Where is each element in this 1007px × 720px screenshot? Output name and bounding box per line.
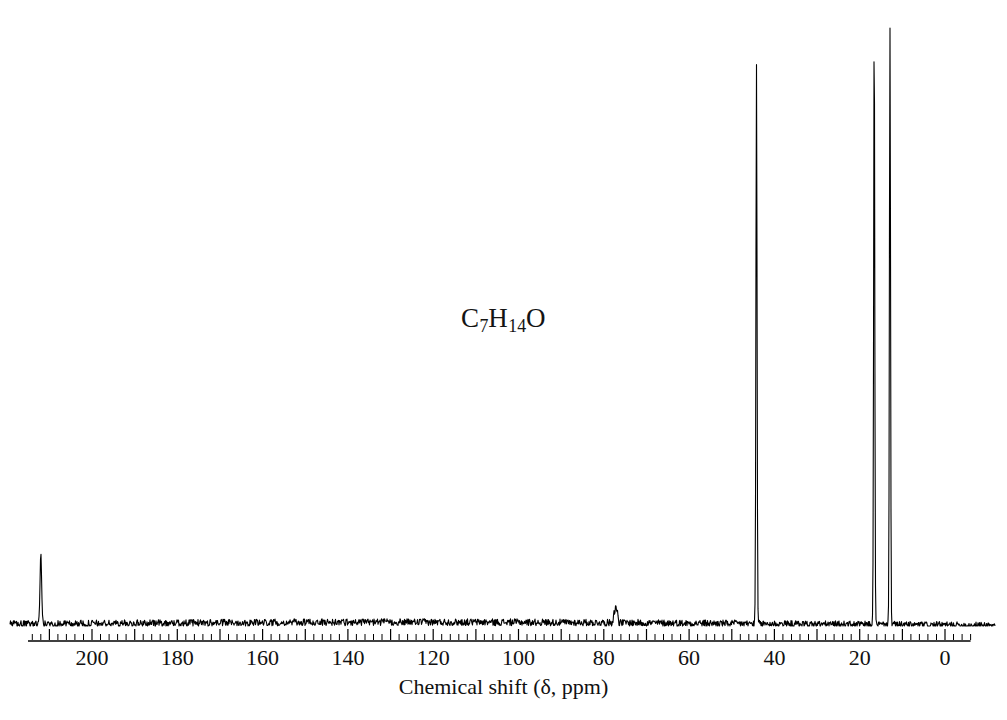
- plot-background: [0, 0, 1007, 720]
- x-axis-tick-label: 100: [502, 645, 535, 671]
- formula-element: H: [488, 303, 508, 333]
- formula-subscript: 14: [508, 316, 526, 336]
- formula-subscript: 7: [479, 316, 488, 336]
- spectrum-plot: [0, 0, 1007, 720]
- molecular-formula-label: C7H14O: [0, 303, 1007, 337]
- x-axis-tick-label: 60: [678, 645, 700, 671]
- spectrum-page: C7H14O 200180160140120100806040200 Chemi…: [0, 0, 1007, 720]
- x-axis-tick-label: 160: [246, 645, 279, 671]
- nmr-spectrum-figure: C7H14O 200180160140120100806040200 Chemi…: [0, 0, 1007, 720]
- x-axis-tick-label: 180: [161, 645, 194, 671]
- x-axis-tick-label: 200: [76, 645, 109, 671]
- x-axis-tick-label: 40: [763, 645, 785, 671]
- x-axis-tick-label: 20: [849, 645, 871, 671]
- x-axis-tick-label: 0: [940, 645, 951, 671]
- x-axis-tick-label: 120: [417, 645, 450, 671]
- formula-element: O: [526, 303, 546, 333]
- x-axis-tick-label: 80: [593, 645, 615, 671]
- x-axis-title: Chemical shift (δ, ppm): [0, 674, 1007, 700]
- formula-element: C: [461, 303, 480, 333]
- x-axis-tick-label: 140: [331, 645, 364, 671]
